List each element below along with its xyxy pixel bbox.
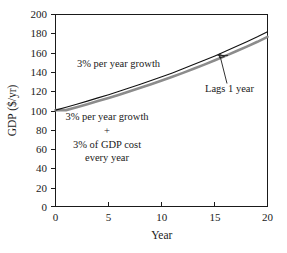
x-tick-label: 15 — [209, 211, 221, 223]
y-tick-label: 120 — [31, 85, 48, 97]
y-tick-label: 0 — [42, 201, 48, 213]
x-tick-label: 5 — [106, 211, 112, 223]
annotation-cost-line2: 3% of GDP cost — [73, 139, 141, 150]
x-axis-title: Year — [151, 229, 172, 241]
annotation-upper-growth: 3% per year growth — [77, 58, 161, 69]
y-tick-label: 60 — [36, 143, 48, 155]
annotation-lags-one-year: Lags 1 year — [205, 83, 254, 94]
y-tick-label: 80 — [36, 124, 48, 136]
y-tick-label: 140 — [31, 66, 48, 78]
y-tick-label: 20 — [36, 182, 48, 194]
x-axis-tick-labels: 0 5 10 15 20 — [53, 211, 274, 223]
y-tick-label: 40 — [36, 162, 48, 174]
x-tick-label: 0 — [53, 211, 59, 223]
y-axis-tick-labels: 200 180 160 140 120 100 80 60 40 20 0 — [31, 8, 48, 213]
y-tick-label: 100 — [31, 105, 48, 117]
y-tick-label: 180 — [31, 27, 48, 39]
y-axis-title: GDP ($/yr) — [6, 85, 19, 137]
annotation-cost-plus: + — [104, 125, 110, 136]
y-tick-label: 160 — [31, 47, 48, 59]
annotation-cost-line1: 3% per year growth — [65, 111, 149, 122]
annotation-cost-line3: every year — [85, 152, 130, 163]
gdp-growth-line-chart: 200 180 160 140 120 100 80 60 40 20 0 0 … — [0, 0, 287, 253]
figure-container: 200 180 160 140 120 100 80 60 40 20 0 0 … — [0, 0, 287, 253]
y-tick-label: 200 — [31, 8, 48, 20]
x-tick-label: 20 — [262, 211, 274, 223]
x-tick-label: 10 — [156, 211, 168, 223]
